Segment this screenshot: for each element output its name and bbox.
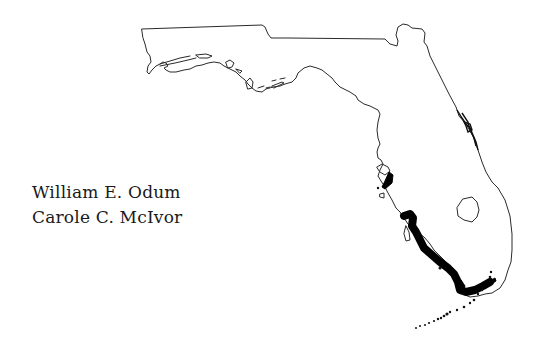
tampa-island bbox=[377, 187, 379, 189]
page: William E. Odum Carole C. McIvor bbox=[0, 0, 538, 349]
author-name: Carole C. McIvor bbox=[32, 205, 182, 230]
island-5 bbox=[280, 78, 285, 79]
mangrove-southwest-coast bbox=[404, 214, 490, 292]
island-4 bbox=[272, 80, 276, 81]
author-list: William E. Odum Carole C. McIvor bbox=[32, 180, 182, 230]
choctawhatchee-bay bbox=[226, 60, 234, 68]
barrier-island-2 bbox=[196, 54, 212, 58]
island-1 bbox=[258, 86, 264, 88]
state-outline bbox=[142, 24, 512, 297]
author-name: William E. Odum bbox=[32, 180, 182, 205]
mangrove-islet-1 bbox=[439, 267, 442, 270]
florida-map bbox=[0, 0, 538, 349]
charlotte-harbor-island bbox=[380, 193, 384, 198]
lake-okeechobee bbox=[457, 197, 479, 222]
